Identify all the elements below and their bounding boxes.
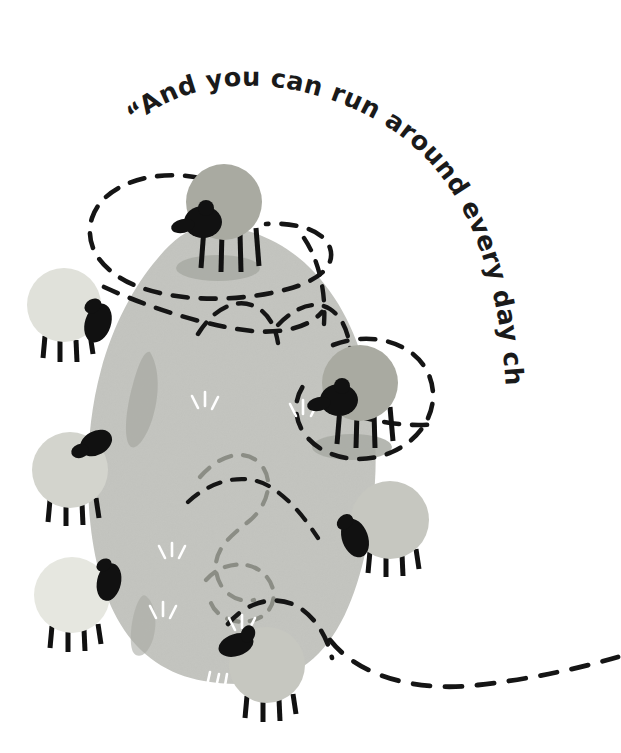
shadow-top-sheep — [176, 255, 260, 281]
sheep-scene-illustration: “And you can run around every day chasin… — [0, 0, 621, 753]
shadow-right-sheep — [312, 434, 392, 460]
illustration-page: “And you can run around every day chasin… — [0, 0, 621, 753]
